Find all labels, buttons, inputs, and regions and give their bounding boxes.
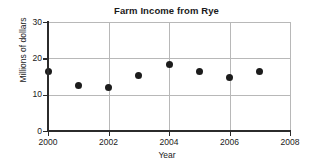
- data-point: [226, 74, 233, 81]
- x-axis-tick-label: 2006: [210, 137, 250, 147]
- x-axis-tick: [109, 131, 110, 136]
- gridline-vertical: [169, 22, 170, 131]
- x-axis-tick-label: 2008: [270, 137, 310, 147]
- y-axis-line: [47, 21, 49, 132]
- x-axis-tick-label: 2004: [149, 137, 189, 147]
- y-axis-tick: [43, 58, 48, 59]
- gridline-vertical: [109, 22, 110, 131]
- plot-area: [48, 22, 290, 131]
- data-point: [196, 68, 203, 75]
- data-point: [166, 61, 173, 68]
- x-axis-label: Year: [44, 150, 290, 160]
- y-axis-tick: [43, 95, 48, 96]
- y-axis-tick-label: 0: [16, 127, 42, 136]
- y-axis-tick: [43, 22, 48, 23]
- data-point: [135, 72, 142, 79]
- x-axis-tick: [48, 131, 49, 136]
- x-axis-tick: [230, 131, 231, 136]
- x-axis-tick-label: 2002: [89, 137, 129, 147]
- data-point: [105, 84, 112, 91]
- y-axis-tick-label: 30: [16, 18, 42, 27]
- chart-container: Farm Income from Rye Millions of dollars…: [0, 0, 333, 167]
- x-axis-tick: [169, 131, 170, 136]
- y-axis-tick-label: 20: [16, 54, 42, 63]
- chart-title: Farm Income from Rye: [0, 5, 333, 17]
- gridline-vertical: [290, 22, 291, 131]
- data-point: [75, 82, 82, 89]
- x-axis-tick: [290, 131, 291, 136]
- y-axis-tick-label: 10: [16, 90, 42, 99]
- data-point: [256, 68, 263, 75]
- x-axis-tick-label: 2000: [28, 137, 68, 147]
